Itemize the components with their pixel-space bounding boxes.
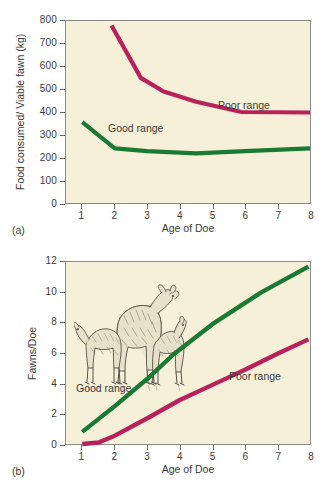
panel-a-y-axis-title: Food consumed/ Viable fawn (kg) <box>14 34 26 190</box>
panel-a-label: (a) <box>12 224 25 236</box>
y-tick-label: 400 <box>40 107 57 117</box>
y-tick-label: 200 <box>40 153 57 163</box>
y-tick-mark <box>60 89 65 90</box>
y-tick-label: 500 <box>40 84 57 94</box>
y-tick-label: 100 <box>40 176 57 186</box>
panel-b-good-range-line <box>82 267 308 432</box>
panel-b-x-axis-title: Age of Doe <box>65 463 311 475</box>
x-tick-label: 6 <box>237 452 253 462</box>
y-tick-label: 300 <box>40 130 57 140</box>
x-tick-label: 3 <box>139 452 155 462</box>
x-tick-mark <box>278 204 279 209</box>
y-tick-mark <box>60 204 65 205</box>
x-tick-mark <box>213 445 214 450</box>
x-tick-label: 5 <box>205 452 221 462</box>
y-tick-label: 2 <box>51 409 57 419</box>
x-tick-mark <box>147 204 148 209</box>
x-tick-label: 4 <box>172 211 188 221</box>
y-tick-label: 700 <box>40 38 57 48</box>
x-tick-label: 2 <box>106 211 122 221</box>
x-tick-mark <box>81 204 82 209</box>
x-tick-label: 7 <box>270 211 286 221</box>
y-tick-mark <box>60 135 65 136</box>
y-tick-mark <box>60 66 65 67</box>
y-tick-mark <box>60 445 65 446</box>
panel-a-x-axis-title: Age of Doe <box>65 222 311 234</box>
x-tick-mark <box>245 204 246 209</box>
x-tick-mark <box>213 204 214 209</box>
y-tick-label: 10 <box>45 287 57 297</box>
panel-a-series-layer <box>66 21 310 203</box>
x-tick-label: 4 <box>172 452 188 462</box>
y-tick-mark <box>60 261 65 262</box>
x-tick-mark <box>180 204 181 209</box>
x-tick-label: 2 <box>106 452 122 462</box>
x-tick-label: 3 <box>139 211 155 221</box>
x-tick-mark <box>147 445 148 450</box>
panel-b-series-layer <box>66 262 310 444</box>
x-tick-label: 8 <box>303 452 319 462</box>
y-tick-mark <box>60 384 65 385</box>
y-tick-mark <box>60 322 65 323</box>
panel-b-plot-area: Good range Poor range <box>65 261 311 445</box>
y-tick-mark <box>60 20 65 21</box>
y-tick-mark <box>60 181 65 182</box>
y-tick-mark <box>60 353 65 354</box>
y-tick-label: 8 <box>51 317 57 327</box>
x-tick-label: 1 <box>73 211 89 221</box>
x-tick-mark <box>114 445 115 450</box>
y-tick-label: 800 <box>40 15 57 25</box>
panel-a-food-consumed: Food consumed/ Viable fawn (kg) Poor ran… <box>0 0 326 241</box>
x-tick-mark <box>180 445 181 450</box>
x-tick-label: 7 <box>270 452 286 462</box>
panel-b-fawns-per-doe: Fawns/Doe <box>0 241 326 482</box>
panel-a-good-range-label: Good range <box>108 122 163 134</box>
panel-a-plot-area: Poor range Good range <box>65 20 311 204</box>
panel-a-poor-range-line <box>112 26 310 113</box>
x-tick-mark <box>278 445 279 450</box>
y-tick-mark <box>60 112 65 113</box>
y-tick-label: 0 <box>51 199 57 209</box>
x-tick-label: 5 <box>205 211 221 221</box>
y-tick-label: 4 <box>51 379 57 389</box>
panel-b-y-axis-title: Fawns/Doe <box>26 326 38 379</box>
y-tick-mark <box>60 414 65 415</box>
y-tick-label: 12 <box>45 256 57 266</box>
y-tick-mark <box>60 158 65 159</box>
x-tick-label: 8 <box>303 211 319 221</box>
panel-b-good-range-label: Good range <box>76 382 131 394</box>
y-tick-label: 6 <box>51 348 57 358</box>
panel-b-label: (b) <box>12 465 25 477</box>
panel-b-poor-range-label: Poor range <box>229 370 281 382</box>
panel-a-poor-range-label: Poor range <box>218 99 270 111</box>
y-tick-label: 600 <box>40 61 57 71</box>
y-tick-mark <box>60 292 65 293</box>
x-tick-mark <box>245 445 246 450</box>
x-tick-mark <box>114 204 115 209</box>
y-tick-mark <box>60 43 65 44</box>
x-tick-label: 6 <box>237 211 253 221</box>
x-tick-mark <box>81 445 82 450</box>
x-tick-label: 1 <box>73 452 89 462</box>
y-tick-label: 0 <box>51 440 57 450</box>
